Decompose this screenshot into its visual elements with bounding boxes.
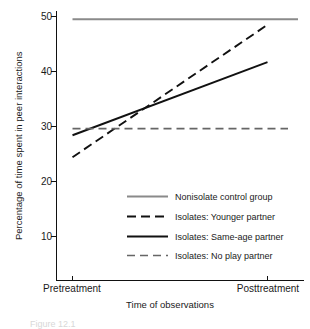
legend-entry-isolates-same-age-partner: Isolates: Same-age partner [127, 232, 284, 242]
figure-container: Percentage of time spent in peer interac… [0, 0, 310, 329]
x-tick-label-posttreatment: Posttreatment [237, 283, 299, 294]
y-tick-label-10: 10 [41, 231, 53, 242]
series-line-isolates-younger-partner [73, 25, 268, 158]
y-tick-label-30: 30 [41, 121, 53, 132]
legend-label-nonisolate-control-group: Nonisolate control group [175, 192, 273, 202]
x-tick-label-pretreatment: Pretreatment [43, 283, 101, 294]
legend-entry-nonisolate-control-group: Nonisolate control group [127, 192, 273, 202]
chart-legend: Nonisolate control group Isolates: Young… [127, 192, 284, 261]
y-tick-label-40: 40 [41, 66, 53, 77]
legend-entry-isolates-no-play-partner: Isolates: No play partner [127, 251, 273, 261]
y-tick-label-50: 50 [41, 11, 53, 22]
legend-label-isolates-same-age-partner: Isolates: Same-age partner [175, 232, 284, 242]
legend-label-isolates-younger-partner: Isolates: Younger partner [175, 212, 275, 222]
series-line-isolates-same-age-partner [73, 62, 268, 135]
legend-entry-isolates-younger-partner: Isolates: Younger partner [127, 212, 275, 222]
y-axis-title: Percentage of time spent in peer interac… [13, 51, 24, 240]
y-tick-label-20: 20 [41, 176, 53, 187]
legend-label-isolates-no-play-partner: Isolates: No play partner [175, 251, 273, 261]
x-axis-title: Time of observations [126, 299, 214, 310]
figure-caption: Figure 12.1 [30, 319, 76, 329]
line-chart: Percentage of time spent in peer interac… [0, 0, 310, 329]
